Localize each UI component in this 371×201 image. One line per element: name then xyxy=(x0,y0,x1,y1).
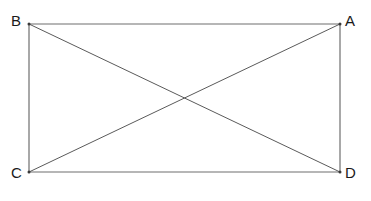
vertex-dot-A xyxy=(339,23,342,26)
geometry-figure: B A C D xyxy=(0,0,371,201)
vertex-dot-B xyxy=(28,23,31,26)
vertex-label-d: D xyxy=(345,165,356,180)
vertex-dot-D xyxy=(339,171,342,174)
vertex-label-c: C xyxy=(11,165,22,180)
rectangle-diagram-svg xyxy=(0,0,371,201)
vertex-label-a: A xyxy=(345,13,355,28)
vertex-label-b: B xyxy=(11,13,21,28)
vertex-dot-C xyxy=(28,171,31,174)
